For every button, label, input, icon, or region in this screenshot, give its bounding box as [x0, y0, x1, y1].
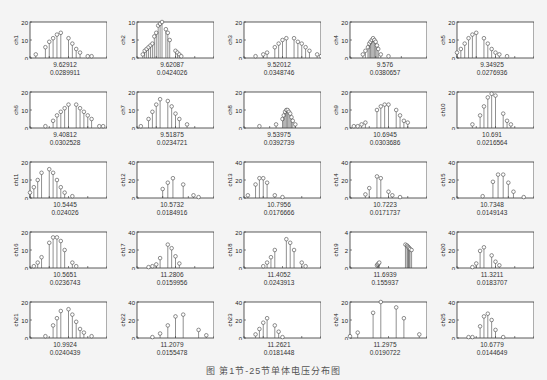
svg-text:20: 20 [21, 20, 28, 26]
svg-text:10: 10 [21, 178, 28, 184]
mean-value: 10.5445 [20, 201, 110, 209]
svg-text:10: 10 [21, 248, 28, 254]
mean-value: 10.7956 [234, 201, 324, 209]
mean-value: 10.6779 [447, 341, 537, 349]
svg-text:ch20: ch20 [440, 243, 446, 257]
mean-value: 10.7348 [447, 201, 537, 209]
svg-text:10: 10 [448, 38, 455, 44]
mean-value: 9.51875 [127, 131, 217, 139]
svg-text:ch3: ch3 [227, 35, 233, 45]
svg-text:20: 20 [128, 90, 135, 96]
svg-text:ch15: ch15 [440, 173, 446, 187]
svg-text:10: 10 [341, 318, 348, 324]
plot-stats: 10.67790.0144649 [447, 341, 537, 357]
plot-ch10: 02010.6510.710.7510.8ch1010.6910.0216564 [427, 70, 534, 140]
svg-text:ch19: ch19 [333, 243, 339, 257]
svg-text:ch10: ch10 [440, 103, 446, 117]
plot-ch19: 0241111.512ch1911.69390.155937 [320, 210, 427, 280]
mean-value: 11.6939 [340, 271, 430, 279]
svg-text:40: 40 [341, 160, 348, 166]
svg-text:20: 20 [128, 178, 135, 184]
svg-text:10: 10 [128, 108, 135, 114]
svg-text:20: 20 [448, 248, 455, 254]
svg-text:40: 40 [448, 230, 455, 236]
svg-text:ch12: ch12 [120, 173, 126, 187]
mean-value: 10.691 [447, 131, 537, 139]
mean-value: 10.5651 [20, 271, 110, 279]
svg-text:40: 40 [235, 160, 242, 166]
mean-value: 9.62912 [20, 61, 110, 69]
svg-text:20: 20 [128, 318, 135, 324]
svg-text:ch13: ch13 [227, 173, 233, 187]
plot-ch2: 05109.59.69.79.89.9ch29.620870.0424026 [107, 0, 214, 70]
stem-plot-grid: 010209.559.69.659.79.75ch19.629120.02899… [0, 0, 547, 360]
plot-ch1: 010209.559.69.659.79.75ch19.629120.02899… [0, 0, 107, 70]
mean-value: 9.53975 [234, 131, 324, 139]
plot-ch11: 0102010.510.5510.610.6510.7ch1110.54450.… [0, 140, 107, 210]
svg-text:40: 40 [448, 300, 455, 306]
svg-text:10: 10 [235, 248, 242, 254]
svg-text:20: 20 [235, 178, 242, 184]
svg-text:20: 20 [341, 20, 348, 26]
svg-text:ch22: ch22 [120, 313, 126, 327]
svg-text:ch11: ch11 [13, 173, 19, 186]
mean-value: 11.3211 [447, 271, 537, 279]
plot-ch6: 010209.39.359.49.459.5ch69.408120.030252… [0, 70, 107, 140]
mean-value: 11.2806 [127, 271, 217, 279]
svg-text:20: 20 [341, 178, 348, 184]
plot-ch23: 0204011.211.2511.311.3511.4ch2311.26210.… [214, 280, 321, 350]
plot-stats: 11.29750.0190722 [340, 341, 430, 357]
figure-caption: 图 第1节-25节单体电压分布图 [0, 364, 547, 377]
svg-text:ch6: ch6 [13, 105, 19, 115]
mean-value: 9.576 [340, 61, 430, 69]
svg-text:20: 20 [21, 300, 28, 306]
plot-ch3: 010209.49.459.59.559.6ch39.520120.034874… [214, 0, 321, 70]
plot-ch16: 0102010.510.5510.610.6510.7ch1610.56510.… [0, 210, 107, 280]
svg-text:40: 40 [448, 160, 455, 166]
svg-text:20: 20 [235, 318, 242, 324]
plot-ch5: 010209.39.359.49.459.5ch59.349250.027693… [427, 0, 534, 70]
svg-text:20: 20 [21, 90, 28, 96]
plot-stats: 10.99240.0240439 [20, 341, 110, 357]
std-value: 0.0190722 [340, 349, 430, 357]
svg-text:20: 20 [128, 248, 135, 254]
svg-text:10: 10 [21, 318, 28, 324]
svg-text:ch23: ch23 [227, 313, 233, 327]
std-value: 0.0240439 [20, 349, 110, 357]
svg-text:20: 20 [448, 90, 455, 96]
mean-value: 9.52012 [234, 61, 324, 69]
plot-stats: 11.26210.0181448 [234, 341, 324, 357]
svg-text:10: 10 [235, 38, 242, 44]
svg-text:20: 20 [341, 300, 348, 306]
std-value: 0.0155478 [127, 349, 217, 357]
mean-value: 10.9924 [20, 341, 110, 349]
svg-text:ch9: ch9 [333, 105, 339, 115]
svg-text:20: 20 [21, 160, 28, 166]
mean-value: 9.40812 [20, 131, 110, 139]
mean-value: 11.4052 [234, 271, 324, 279]
svg-text:ch16: ch16 [13, 243, 19, 257]
svg-text:20: 20 [235, 230, 242, 236]
svg-text:40: 40 [235, 300, 242, 306]
plot-ch25: 0204010.6510.710.7510.8ch2510.67790.0144… [427, 280, 534, 350]
svg-text:40: 40 [128, 230, 135, 236]
plot-ch15: 0204010.6510.710.7510.8ch1510.73480.0149… [427, 140, 534, 210]
svg-text:10: 10 [128, 20, 135, 26]
mean-value: 10.5732 [127, 201, 217, 209]
svg-text:ch5: ch5 [440, 35, 446, 45]
svg-text:20: 20 [235, 90, 242, 96]
plot-ch24: 0102011.2511.311.35ch2411.29750.0190722 [320, 280, 427, 350]
plot-ch17: 0204011.211.2511.311.3511.4ch1711.28060.… [107, 210, 214, 280]
std-value: 0.0181448 [234, 349, 324, 357]
svg-text:20: 20 [235, 20, 242, 26]
mean-value: 11.2975 [340, 341, 430, 349]
mean-value: 11.2621 [234, 341, 324, 349]
svg-text:ch7: ch7 [120, 105, 126, 115]
mean-value: 9.62087 [127, 61, 217, 69]
plot-ch13: 0204010.7510.810.8510.910.95ch1310.79560… [214, 140, 321, 210]
svg-text:10: 10 [21, 38, 28, 44]
svg-text:4: 4 [345, 230, 349, 236]
svg-text:ch21: ch21 [13, 313, 19, 327]
svg-text:ch25: ch25 [440, 313, 446, 327]
plot-ch14: 0204010.6510.710.7510.810.85ch1410.72230… [320, 140, 427, 210]
